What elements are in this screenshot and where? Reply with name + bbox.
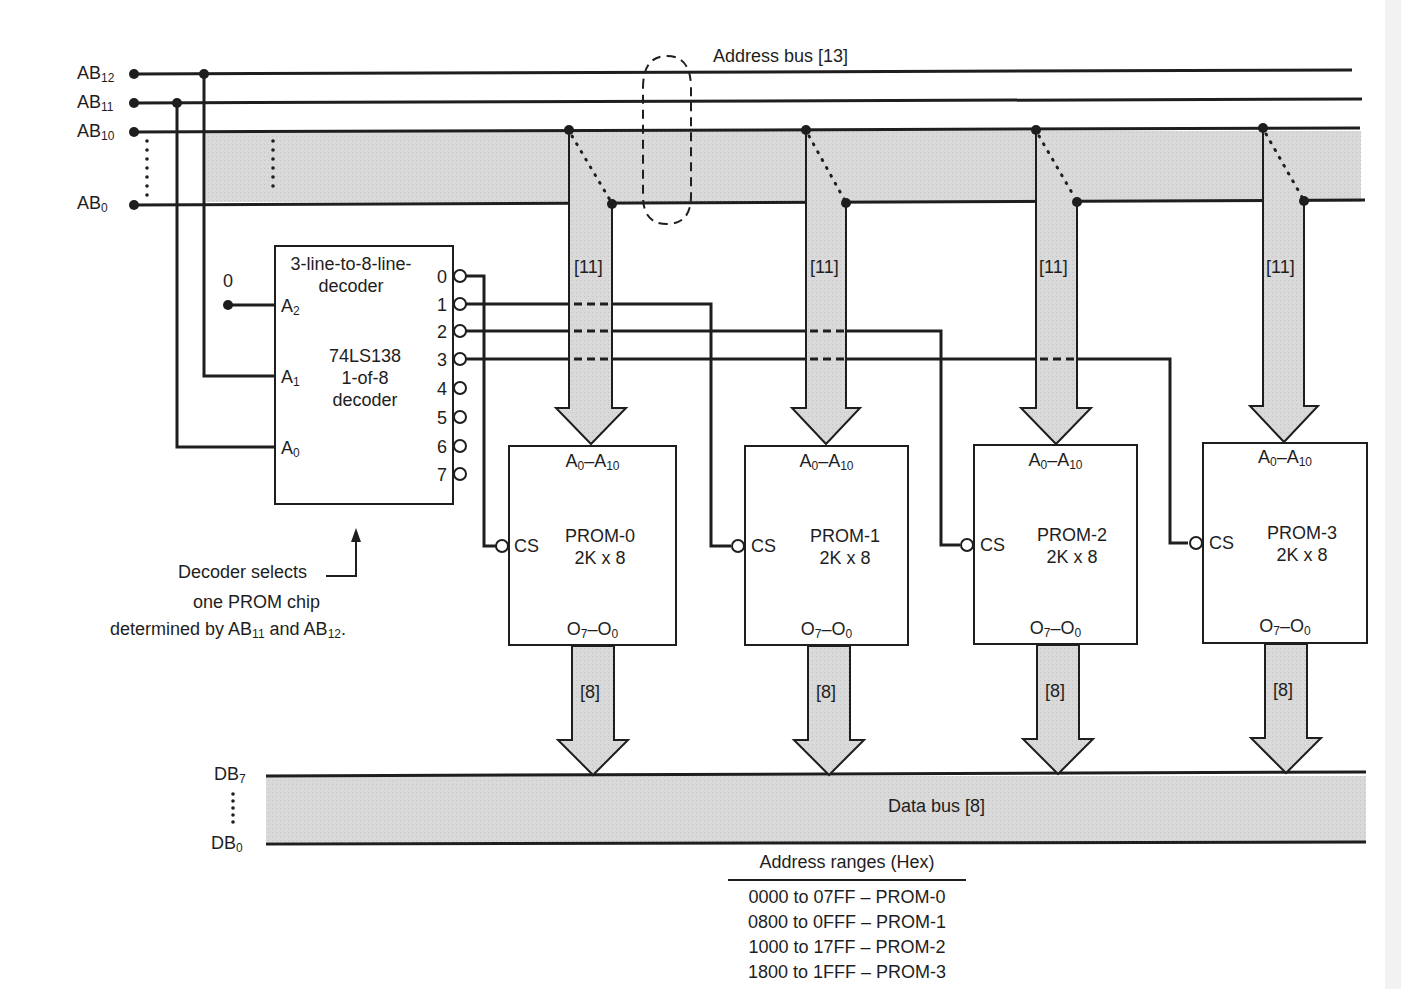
address-range-row: 0000 to 07FF – PROM-0 <box>728 885 966 910</box>
decoder-part-label: 74LS138 1-of-8 decoder <box>300 345 430 411</box>
tie-low-terminal <box>223 300 233 310</box>
data-width-1: [8] <box>816 683 836 701</box>
data-bus-drops <box>558 644 1321 775</box>
address-line-terminals <box>129 69 209 210</box>
decoder-output-bubbles <box>454 270 466 480</box>
data-bus-ellipsis <box>231 792 235 824</box>
addr-width-2: [11] <box>1039 258 1068 276</box>
address-ranges-table: Address ranges (Hex) 0000 to 07FF – PROM… <box>728 852 966 985</box>
decoder-output-6: 6 <box>437 438 447 456</box>
decoder-output-1: 1 <box>437 296 447 314</box>
prom0-data-pins: O7–O0 <box>509 620 676 640</box>
decoder-output-7: 7 <box>437 466 447 484</box>
ab12-label: AB12 <box>77 64 114 84</box>
prom3-addr-pins: A0–A10 <box>1203 448 1367 468</box>
data-width-3: [8] <box>1273 681 1293 699</box>
prom0-cs-label: CS <box>514 537 539 555</box>
addr-width-0: [11] <box>574 258 603 276</box>
prom2-addr-pins: A0–A10 <box>974 451 1137 471</box>
note-line-2: one PROM chip <box>193 593 320 611</box>
address-range-row: 1000 to 17FF – PROM-2 <box>728 935 966 960</box>
decoder-output-2: 2 <box>437 323 447 341</box>
note-line-1: Decoder selects <box>178 563 307 581</box>
db0-label: DB0 <box>211 834 243 854</box>
decoder-input-a2: A2 <box>281 297 300 317</box>
decoder-title: 3-line-to-8-line- decoder <box>276 253 426 297</box>
prom0-title: PROM-02K x 8 <box>550 525 650 569</box>
address-bus-band <box>206 131 1361 202</box>
addr-width-3: [11] <box>1266 258 1295 276</box>
ab11-label: AB11 <box>77 93 113 113</box>
prom1-cs-label: CS <box>751 537 776 555</box>
prom3-cs-label: CS <box>1209 534 1234 552</box>
prom0-addr-pins: A0–A10 <box>509 452 676 472</box>
address-ranges-title: Address ranges (Hex) <box>728 852 966 881</box>
decoder-output-4: 4 <box>437 380 447 398</box>
address-bus-label: Address bus [13] <box>713 47 848 65</box>
prom2-cs-label: CS <box>980 536 1005 554</box>
decoder-output-5: 5 <box>437 409 447 427</box>
decoder-input-a1: A1 <box>281 368 300 388</box>
prom1-title: PROM-12K x 8 <box>795 525 895 569</box>
data-bus-label: Data bus [8] <box>888 797 985 815</box>
decoder-input-wires <box>177 74 275 447</box>
prom2-data-pins: O7–O0 <box>974 619 1137 639</box>
prom2-title: PROM-22K x 8 <box>1022 524 1122 568</box>
address-range-row: 0800 to 0FFF – PROM-1 <box>728 910 966 935</box>
decoder-output-3: 3 <box>437 351 447 369</box>
decoder-input-a0: A0 <box>281 439 300 459</box>
note-line-3: determined by AB11 and AB12. <box>110 620 346 640</box>
prom3-data-pins: O7–O0 <box>1203 617 1367 637</box>
data-bus-band <box>266 776 1366 842</box>
prom3-title: PROM-32K x 8 <box>1252 522 1352 566</box>
ab10-label: AB10 <box>77 122 114 142</box>
address-range-row: 1800 to 1FFF – PROM-3 <box>728 960 966 985</box>
decoder-output-0: 0 <box>437 268 447 286</box>
data-width-0: [8] <box>580 683 600 701</box>
ab0-label: AB0 <box>77 194 108 214</box>
addr-width-1: [11] <box>810 258 839 276</box>
note-arrowhead-icon <box>351 528 361 542</box>
tie-low-value: 0 <box>223 272 233 290</box>
prom1-addr-pins: A0–A10 <box>745 452 908 472</box>
data-width-2: [8] <box>1045 682 1065 700</box>
db7-label: DB7 <box>214 765 246 785</box>
prom1-data-pins: O7–O0 <box>745 620 908 640</box>
